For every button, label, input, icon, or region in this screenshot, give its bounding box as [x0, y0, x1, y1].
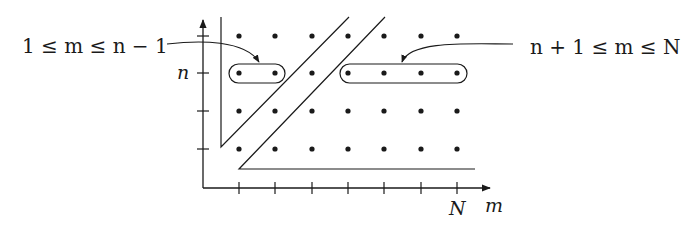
right-capsule — [340, 64, 467, 83]
y-tick-label-n: n — [177, 61, 189, 83]
right-annotation-arrow — [402, 44, 513, 62]
lattice-points — [236, 33, 459, 151]
left-annotation-arrow — [167, 42, 259, 62]
axes — [203, 20, 490, 188]
lattice-diagram: 1 ≤ m ≤ n − 1 n + 1 ≤ m ≤ N n N m — [0, 0, 694, 230]
left-region-label: 1 ≤ m ≤ n − 1 — [22, 34, 168, 58]
x-axis-label-m: m — [485, 194, 503, 216]
x-tick-label-N: N — [448, 197, 467, 219]
right-region-label: n + 1 ≤ m ≤ N — [530, 35, 681, 59]
